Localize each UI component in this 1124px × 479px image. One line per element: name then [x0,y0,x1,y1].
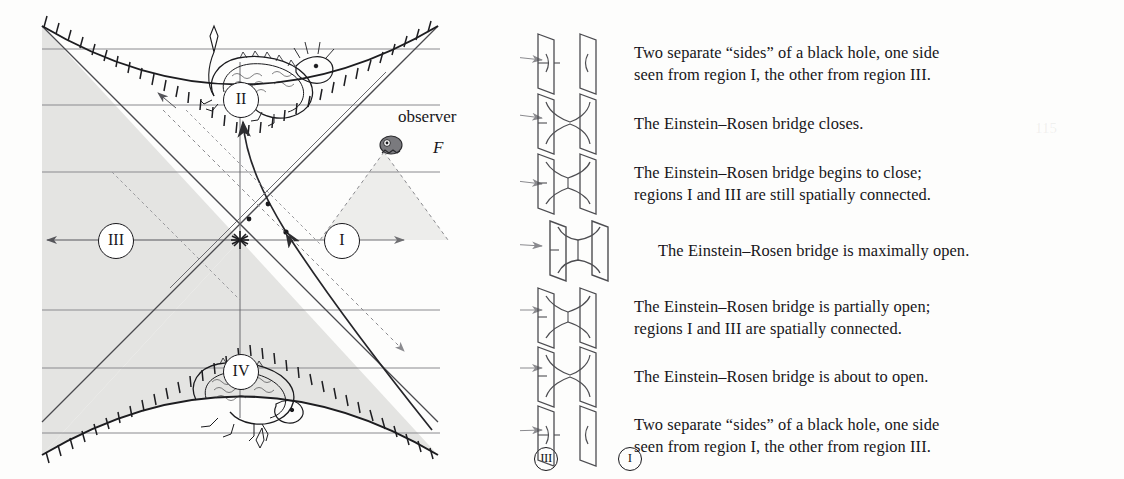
caption-text: The Einstein–Rosen bridge is maximally o… [632,240,1124,262]
region-badge-IV: IV [223,354,259,390]
caption-line-2: seen from region I, the other from regio… [634,436,1124,458]
caption-line-2: regions I and III are spatially connecte… [634,318,1124,340]
caption-line-2: seen from region I, the other from regio… [634,64,1124,86]
caption-text: Two separate “sides” of a black hole, on… [632,42,1124,86]
caption-row: Two separate “sides” of a black hole, on… [520,400,1124,472]
caption-line-1: The Einstein–Rosen bridge begins to clos… [634,163,922,182]
bridge-icon-closing-medium [520,148,632,220]
caption-line-1: Two separate “sides” of a black hole, on… [634,415,939,434]
caption-line-1: The Einstein–Rosen bridge closes. [634,114,863,133]
caption-line-1: The Einstein–Rosen bridge is maximally o… [658,241,969,260]
caption-row: The Einstein–Rosen bridge begins to clos… [520,148,1124,220]
observer-label: observer [398,107,457,127]
kruskal-diagram-svg [0,0,520,479]
kruskal-diagram: II III I IV observer F [0,0,520,479]
region-badge-III: III [98,223,134,259]
caption-line-2: regions I and III are still spatially co… [634,184,1124,206]
caption-row: III I The Einstein–Rosen bridge is maxim… [520,215,1124,287]
caption-text: The Einstein–Rosen bridge closes. [632,113,1124,135]
bridge-caption-panel: Two separate “sides” of a black hole, on… [520,0,1124,479]
caption-text: The Einstein–Rosen bridge begins to clos… [632,162,1124,206]
bridge-icon-separated [520,400,632,472]
caption-text: The Einstein–Rosen bridge is about to op… [632,366,1124,388]
caption-text: Two separate “sides” of a black hole, on… [632,414,1124,458]
caption-line-1: The Einstein–Rosen bridge is about to op… [634,367,928,386]
caption-line-1: Two separate “sides” of a black hole, on… [634,43,939,62]
observer-icon [380,136,402,154]
region-badge-I: I [324,223,360,259]
figure-page: the 115 are [0,0,1124,479]
bridge-icon-maximal: III I [520,215,632,287]
region-badge-II: II [223,82,259,118]
observer-symbol-label: F [433,138,443,158]
caption-text: The Einstein–Rosen bridge is partially o… [632,296,1124,340]
caption-line-1: The Einstein–Rosen bridge is partially o… [634,297,930,316]
